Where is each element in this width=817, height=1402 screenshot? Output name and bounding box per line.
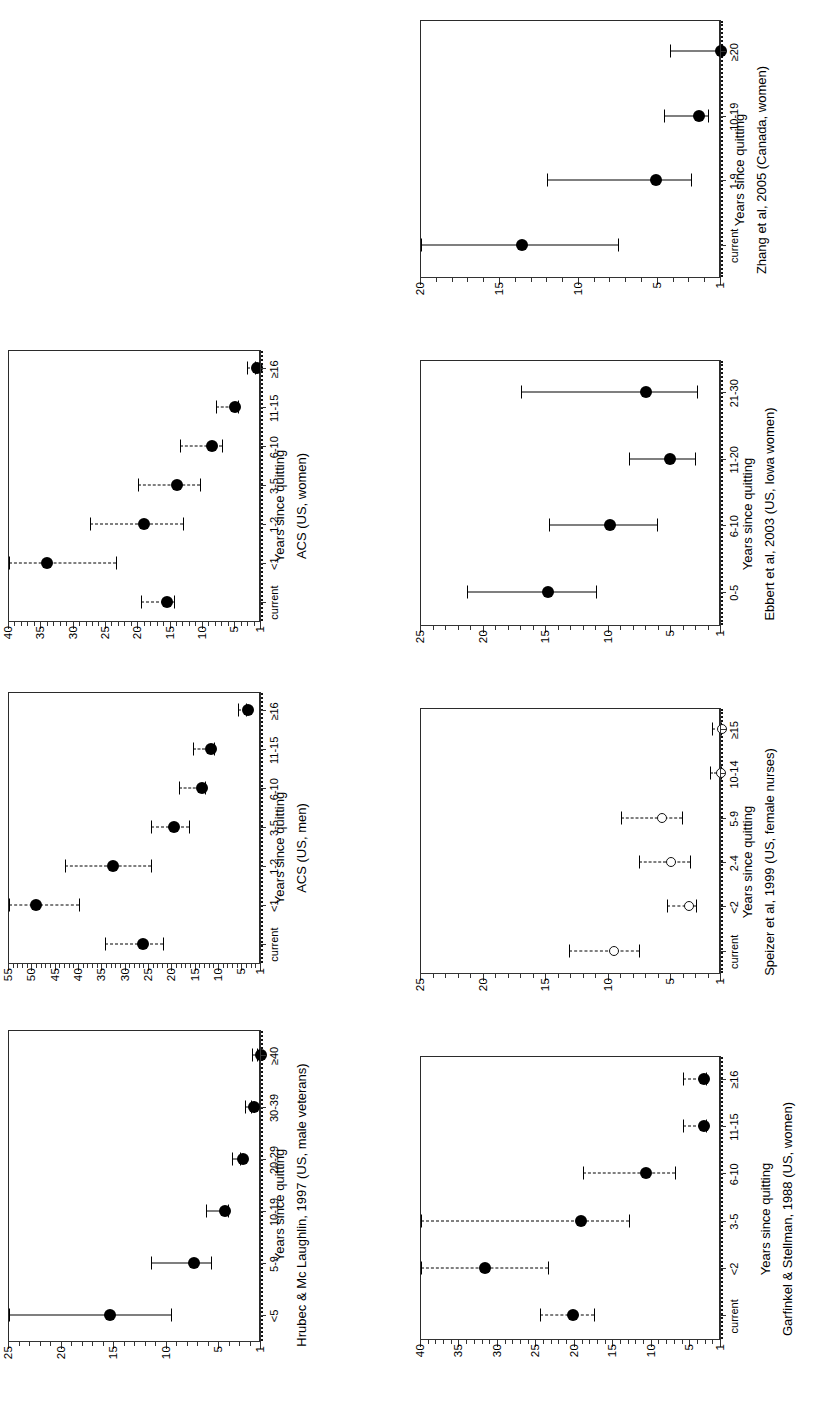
y-axis-minor-tick (87, 964, 88, 968)
error-bar (421, 1220, 629, 1221)
y-axis-minor-tick (558, 626, 559, 630)
error-bar-cap-lower (639, 944, 640, 957)
panel-caption: Zhang et al, 2005 (Canada, women) (754, 0, 769, 340)
y-axis-minor-tick (445, 974, 446, 978)
data-point-marker (693, 110, 705, 122)
y-axis-tick-label: 20 (414, 282, 426, 295)
panel-zhang-2005-chart: 15101520current1-910-19≥20Years since qu… (410, 0, 817, 340)
y-axis-tick-label: 25 (2, 1346, 14, 1359)
y-axis-tick-label: 15 (107, 1346, 119, 1359)
y-axis-tick-label: 20 (131, 626, 143, 639)
x-axis-category-label: ≥16 (728, 1071, 740, 1089)
y-axis-minor-tick (562, 278, 563, 282)
x-axis-category-label: <2 (728, 1263, 740, 1276)
y-axis-minor-tick (508, 974, 509, 978)
data-point-marker (168, 821, 180, 833)
error-bar-cap-lower (618, 238, 619, 251)
x-axis-category-label: current (728, 935, 740, 969)
panel-acs-us-men-rotor: 1510152025303540455055current<11-23-56-1… (0, 672, 330, 1024)
error-bar-cap-lower (222, 440, 223, 453)
error-bar-cap-upper (245, 1101, 246, 1114)
panel-acs-us-women: 1510152025303540current<11-23-56-1011-15… (0, 330, 330, 682)
y-axis-minor-tick (124, 622, 125, 626)
y-axis-minor-tick (658, 1340, 659, 1344)
y-axis-tick-label: 5 (235, 968, 247, 975)
y-axis-minor-tick (633, 626, 634, 630)
x-axis-tick (720, 459, 726, 460)
y-axis-minor-tick (229, 1342, 230, 1346)
panel-caption: Garfinkel & Stellman, 1988 (US, women) (780, 1036, 795, 1402)
error-bar-cap-upper (467, 585, 468, 598)
y-axis-minor-tick (445, 626, 446, 630)
error-bar-cap-upper (206, 1205, 207, 1218)
data-point-marker (137, 938, 149, 950)
y-axis-minor-tick (134, 1342, 135, 1346)
y-axis-minor-tick (658, 974, 659, 978)
error-bar (9, 1315, 171, 1316)
x-axis-tick (260, 1107, 266, 1108)
y-axis-minor-tick (658, 626, 659, 630)
y-axis-tick-label: 25 (414, 630, 426, 643)
y-axis-minor-tick (508, 626, 509, 630)
x-axis-tick (260, 1315, 266, 1316)
x-axis-tick (720, 818, 726, 819)
error-bar (9, 562, 116, 563)
y-axis-minor-tick (495, 626, 496, 630)
y-axis-minor-tick (53, 622, 54, 626)
error-bar-cap-upper (670, 45, 671, 58)
error-bar (521, 392, 697, 393)
x-axis-category-label: 6-10 (728, 1163, 740, 1185)
error-bar-cap-upper (683, 1072, 684, 1085)
error-bar-cap-lower (211, 1257, 212, 1270)
x-axis-tick (720, 1173, 726, 1174)
error-bar-cap-upper (421, 238, 422, 251)
y-axis-minor-tick (144, 622, 145, 626)
x-axis-category-label: ≥15 (728, 721, 740, 739)
y-axis-tick-label: 35 (452, 1344, 464, 1357)
data-point-marker (188, 1257, 200, 1269)
plot-area (8, 1030, 260, 1342)
error-bar-cap-lower (79, 898, 80, 911)
y-axis-tick-label: 1 (714, 630, 726, 637)
y-axis-minor-tick (704, 278, 705, 282)
data-point-marker (666, 857, 676, 867)
reference-line-at-1 (721, 709, 723, 973)
y-axis-minor-tick (69, 964, 70, 968)
panel-acs-us-men-chart: 1510152025303540455055current<11-23-56-1… (0, 672, 330, 1024)
y-axis-minor-tick (40, 1342, 41, 1346)
y-axis-minor-tick (628, 1340, 629, 1344)
x-axis (260, 350, 261, 622)
y-axis-tick-label: 25 (529, 1344, 541, 1357)
x-axis (720, 20, 721, 278)
error-bar-cap-lower (189, 821, 190, 834)
error-bar-cap-lower (690, 856, 691, 869)
y-axis-tick-label: 35 (95, 968, 107, 981)
reference-line-at-1 (721, 21, 723, 277)
error-bar-cap-lower (548, 1262, 549, 1275)
x-axis-title: Years since quitting (272, 330, 287, 682)
error-bar (141, 601, 173, 602)
error-bar-cap-lower (163, 937, 164, 950)
x-axis-category-label: 11-20 (728, 446, 740, 473)
y-axis-minor-tick (505, 1340, 506, 1344)
error-bar (421, 244, 618, 245)
y-axis-minor-tick (215, 622, 216, 626)
data-point-marker (650, 174, 662, 186)
data-point-marker (516, 239, 528, 251)
y-axis-minor-tick (208, 622, 209, 626)
y-axis-minor-tick (533, 626, 534, 630)
error-bar (90, 523, 184, 524)
plot-area (8, 350, 260, 622)
error-bar-cap-lower (255, 362, 256, 375)
reference-line-at-1 (721, 1057, 723, 1339)
data-point-marker (664, 453, 676, 465)
plot-area (420, 20, 720, 278)
y-axis-minor-tick (483, 278, 484, 282)
y-axis-minor-tick (708, 626, 709, 630)
x-axis (260, 1030, 261, 1342)
error-bar-cap-lower (697, 386, 698, 399)
panel-caption: ACS (US, women) (294, 330, 309, 682)
panel-ebbert-2003-rotor: 15101520250-56-1011-2021-30Years since q… (410, 340, 817, 688)
y-axis-minor-tick (124, 1342, 125, 1346)
x-axis-title: Years since quitting (272, 672, 287, 1024)
